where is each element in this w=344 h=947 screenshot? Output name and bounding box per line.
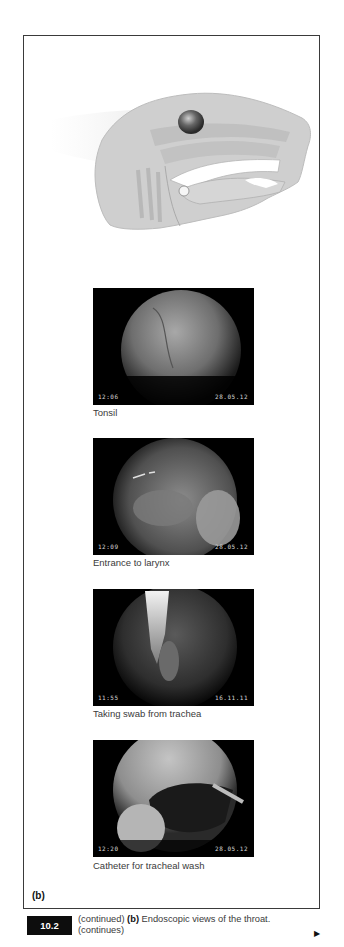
continue-arrow-icon: ▶	[314, 929, 320, 938]
photo-caption: Catheter for tracheal wash	[93, 860, 204, 871]
endoscopic-photo-larynx: 12:09 28.05.12	[93, 438, 254, 555]
photo-date: 28.05.12	[215, 845, 248, 852]
caption-suffix: (continues)	[78, 925, 124, 935]
photo-time: 12:09	[98, 543, 119, 550]
caption-panel-ref: (b)	[127, 914, 139, 924]
caption-text: Endoscopic views of the throat.	[142, 914, 271, 924]
figure-caption: (continued) (b) Endoscopic views of the …	[78, 914, 323, 936]
endoscopic-photo-tonsil: 12:06 28.05.12	[93, 288, 254, 405]
endoscopic-photo-tracheal-wash: 12:20 28.05.12	[93, 740, 254, 857]
photo-time: 11:55	[98, 694, 119, 701]
figure-number-badge: 10.2	[27, 916, 72, 935]
head-anatomy-illustration	[40, 80, 320, 250]
photo-caption: Entrance to larynx	[93, 557, 170, 568]
tonsil-marker	[179, 186, 189, 196]
photo-date: 28.05.12	[215, 543, 248, 550]
photo-date: 16.11.11	[215, 694, 248, 701]
photo-caption: Taking swab from trachea	[93, 708, 201, 719]
photo-time: 12:20	[98, 845, 119, 852]
photo-caption: Tonsil	[93, 407, 117, 418]
caption-prefix: (continued)	[78, 914, 125, 924]
eye-icon	[178, 110, 204, 134]
panel-label: (b)	[32, 890, 45, 901]
endoscopic-photo-trachea-swab: 11:55 16.11.11	[93, 589, 254, 706]
photo-date: 28.05.12	[215, 393, 248, 400]
photo-time: 12:06	[98, 393, 119, 400]
